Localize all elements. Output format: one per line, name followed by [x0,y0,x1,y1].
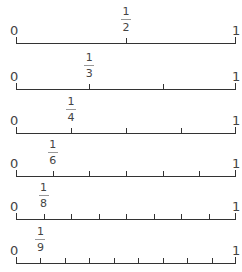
unit-fraction-label: 19 [30,226,50,253]
number-line-9ths: 0119 [0,0,242,272]
fraction-bar [35,239,45,240]
tick-mark [163,258,164,263]
axis-line [16,263,236,264]
label-one: 1 [232,244,240,257]
tick-mark [89,258,90,263]
tick-mark [40,258,41,263]
tick-mark [212,258,213,263]
fraction-denominator: 9 [30,242,50,253]
tick-mark [65,258,66,263]
label-zero: 0 [10,244,18,257]
tick-mark [138,258,139,263]
fraction-numerator: 1 [30,226,50,237]
tick-mark [114,258,115,263]
tick-mark [187,258,188,263]
